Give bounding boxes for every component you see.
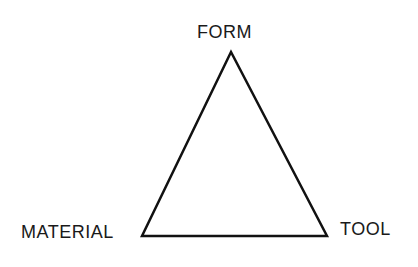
triangle-diagram: FORM MATERIAL TOOL	[0, 0, 418, 267]
triangle-outline	[142, 52, 327, 236]
node-label-form: FORM	[197, 22, 252, 43]
node-label-material: MATERIAL	[21, 222, 114, 243]
node-label-tool: TOOL	[340, 219, 391, 240]
